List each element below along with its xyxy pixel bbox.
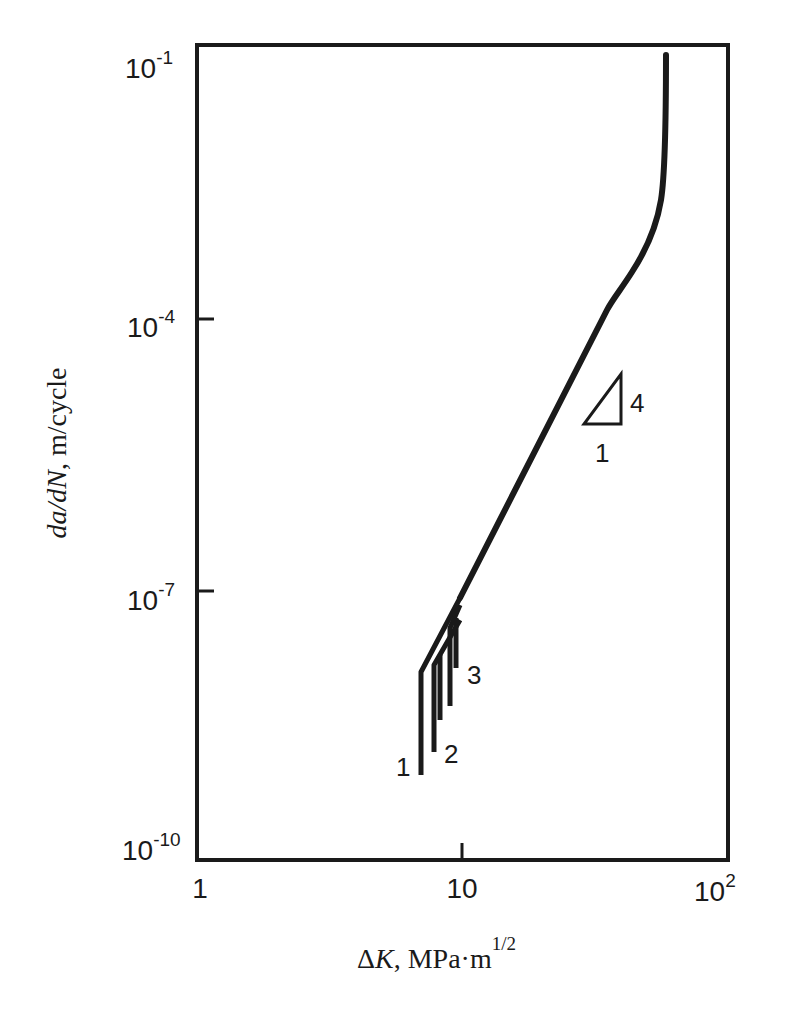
curve-label-2: 2: [444, 739, 458, 769]
main-growth-curve: [460, 55, 666, 598]
curve-label-1: 1: [396, 752, 410, 782]
x-tick-label-1: 1: [192, 873, 208, 904]
y-tick-label-1e-7: 10-7: [127, 579, 175, 616]
slope-rise-label: 4: [630, 388, 644, 418]
y-tick-label-1e-4: 10-4: [127, 306, 175, 343]
slope-triangle: [584, 374, 621, 424]
x-axis-title: ΔK, MPa·m1/2: [357, 933, 516, 974]
fatigue-crack-growth-chart: 10-1 10-4 10-7 10-10 1 10 102 ΔK, MPa·m1…: [0, 0, 785, 1009]
plot-frame: [197, 45, 728, 860]
x-tick-label-100: 102: [694, 870, 736, 907]
curve-label-3: 3: [467, 660, 481, 690]
y-tick-label-1e-10: 10-10: [122, 829, 181, 866]
y-axis-title: da/dN, m/cycle: [41, 367, 72, 538]
x-tick-label-10: 10: [446, 873, 477, 904]
y-tick-label-1e-1: 10-1: [125, 47, 173, 84]
slope-run-label: 1: [595, 438, 609, 468]
